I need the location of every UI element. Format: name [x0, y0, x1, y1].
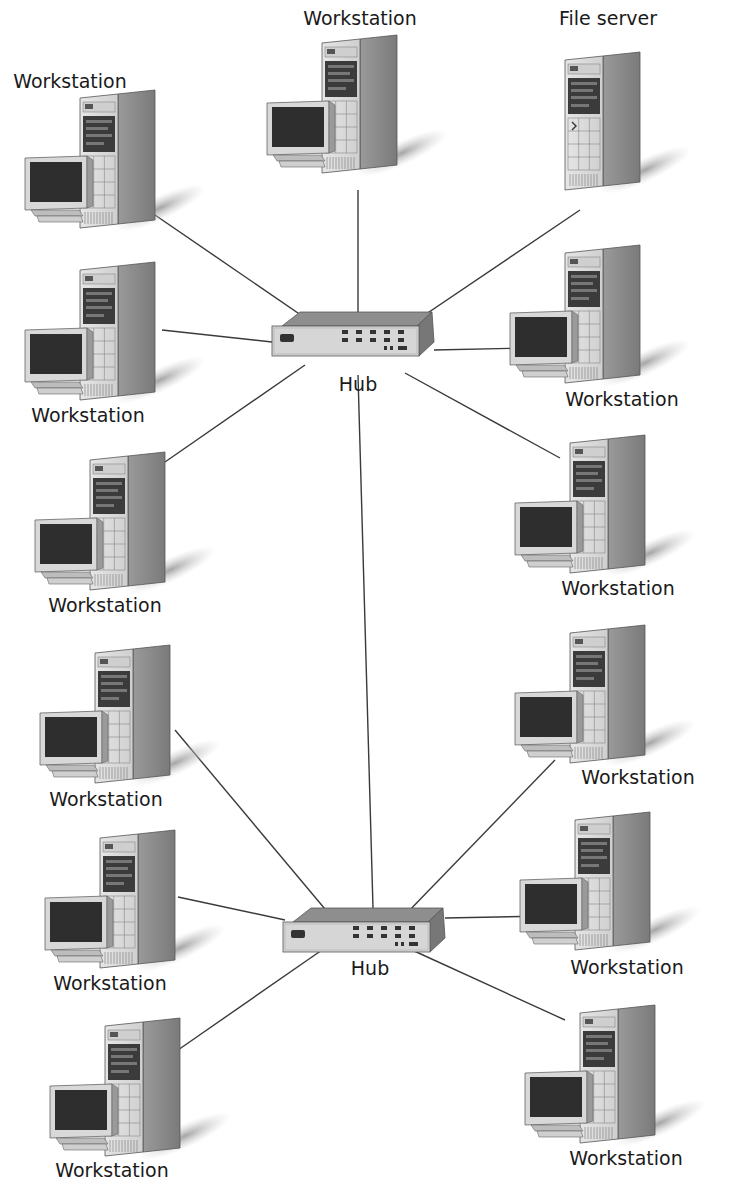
- workstation-label: Workstation: [581, 766, 695, 788]
- link-n12: [178, 950, 322, 1050]
- hub-icon: [283, 908, 445, 952]
- link-n13: [412, 950, 565, 1020]
- workstation-label: Workstation: [570, 956, 684, 978]
- workstation-label: Workstation: [49, 788, 163, 810]
- hub-label: Hub: [351, 957, 389, 979]
- workstation-label: Workstation: [303, 7, 417, 29]
- file-server-label: File server: [559, 7, 657, 29]
- workstation-icon: [267, 35, 452, 185]
- link-n7: [405, 373, 560, 458]
- workstation-icon: [515, 625, 700, 775]
- workstation-label: Workstation: [53, 972, 167, 994]
- workstation-icon: [515, 435, 700, 585]
- workstation-label: Workstation: [565, 388, 679, 410]
- hub-label: Hub: [339, 373, 377, 395]
- workstation-icon: [45, 830, 230, 980]
- workstation-label: Workstation: [561, 577, 675, 599]
- network-diagram: WorkstationWorkstationFile serverWorksta…: [0, 0, 747, 1203]
- file-server-icon: [565, 52, 695, 202]
- workstation-label: Workstation: [55, 1159, 169, 1181]
- link-n6: [165, 365, 305, 462]
- workstation-label: Workstation: [13, 70, 127, 92]
- workstation-icon: [510, 245, 695, 395]
- workstation-icon: [25, 90, 210, 240]
- workstation-icon: [40, 645, 225, 795]
- hub-icon: [272, 312, 434, 356]
- backbone-link: [358, 375, 373, 908]
- workstation-label: Workstation: [31, 404, 145, 426]
- workstation-icon: [35, 452, 220, 602]
- workstation-icon: [525, 1005, 710, 1155]
- workstation-icon: [25, 262, 210, 412]
- workstation-icon: [520, 812, 705, 962]
- workstation-label: Workstation: [48, 594, 162, 616]
- workstation-icon: [50, 1018, 235, 1168]
- link-n4: [162, 330, 272, 342]
- workstation-label: Workstation: [569, 1147, 683, 1169]
- link-n10: [178, 897, 285, 920]
